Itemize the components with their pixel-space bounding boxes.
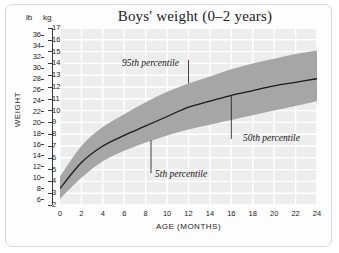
chart-title: Boys' weight (0–2 years): [60, 8, 330, 25]
x-tick: 16: [227, 209, 235, 218]
x-tick: 2: [79, 209, 83, 218]
x-tick: 20: [270, 209, 278, 218]
x-tick: 18: [249, 209, 257, 218]
y-tick-kg: 8: [52, 130, 56, 138]
annotation-50th-percentile: 50th percentile: [243, 133, 300, 143]
y-tick-lb: 18: [33, 130, 41, 138]
y-tick-kg: 4: [52, 177, 56, 185]
y-axis-lb-ticks: 681012141618202224262830323436: [24, 28, 44, 205]
x-tick: 22: [291, 209, 299, 218]
x-tick: 6: [122, 209, 126, 218]
y-axis-unit-lb: lb: [26, 13, 32, 22]
annotation-95th-percentile: 95th percentile: [122, 58, 179, 68]
y-tick-kg: 6: [52, 154, 56, 162]
y-tick-kg: 17: [52, 24, 60, 32]
y-tick-lb: 12: [33, 163, 41, 171]
y-axis-kg-ticks: 234567891011121314151617: [45, 28, 67, 205]
y-tick-kg: 13: [52, 71, 60, 79]
y-tick-lb: 36: [33, 31, 41, 39]
y-tick-kg: 3: [52, 189, 56, 197]
y-tick-lb: 20: [33, 119, 41, 127]
y-tick-kg: 15: [52, 48, 60, 56]
y-tick-kg: 2: [52, 201, 56, 209]
y-tick-lb: 16: [33, 141, 41, 149]
y-tick-kg: 16: [52, 36, 60, 44]
y-axis-unit-kg: kg: [43, 13, 51, 22]
y-tick-lb: 34: [33, 42, 41, 50]
x-axis-ticks: 024681012141618202224: [60, 206, 317, 220]
x-axis-title: AGE (MONTHS): [60, 222, 317, 231]
y-tick-kg: 12: [52, 83, 60, 91]
y-tick-lb: 28: [33, 75, 41, 83]
y-tick-lb: 26: [33, 86, 41, 94]
x-tick: 24: [313, 209, 321, 218]
y-tick-kg: 5: [52, 166, 56, 174]
x-tick: 14: [206, 209, 214, 218]
y-tick-kg: 7: [52, 142, 56, 150]
y-tick-kg: 11: [52, 95, 60, 103]
y-tick-lb: 24: [33, 97, 41, 105]
x-tick: 4: [101, 209, 105, 218]
y-tick-kg: 10: [52, 107, 60, 115]
annotation-5th-percentile: 5th percentile: [155, 169, 207, 179]
y-tick-kg: 14: [52, 59, 60, 67]
y-tick-lb: 14: [33, 152, 41, 160]
x-tick: 10: [163, 209, 171, 218]
y-tick-lb: 6: [37, 196, 41, 204]
y-tick-lb: 10: [33, 174, 41, 182]
x-tick: 12: [184, 209, 192, 218]
x-tick: 8: [144, 209, 148, 218]
y-tick-lb: 30: [33, 64, 41, 72]
growth-chart-figure: Boys' weight (0–2 years) lb kg WEIGHT 68…: [0, 0, 339, 253]
y-tick-lb: 32: [33, 53, 41, 61]
y-tick-kg: 9: [52, 118, 56, 126]
y-axis-title: WEIGHT: [13, 80, 22, 140]
y-tick-lb: 22: [33, 108, 41, 116]
y-tick-lb: 8: [37, 185, 41, 193]
x-tick: 0: [58, 209, 62, 218]
